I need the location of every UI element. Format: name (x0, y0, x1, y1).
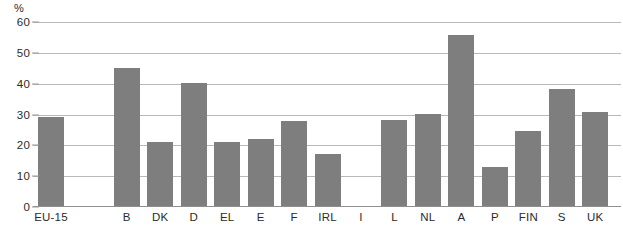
bar (181, 83, 207, 206)
y-axis-tick-mark (32, 114, 39, 115)
y-axis-tick-mark (32, 22, 39, 23)
bar-chart: % EU-15BDKDELEFIRLILNLAPFINSUK 605040302… (0, 0, 623, 235)
y-axis-tick-label: 40 (0, 78, 30, 90)
gridline (33, 53, 621, 54)
y-axis-tick-label: 20 (0, 139, 30, 151)
x-axis-tick-label: FIN (519, 211, 538, 223)
x-axis-tick-label: L (391, 211, 398, 223)
y-axis-tick-mark (32, 145, 39, 146)
bar (515, 131, 541, 206)
x-axis-tick-label: A (457, 211, 465, 223)
y-axis-unit-label: % (14, 2, 24, 14)
y-axis-tick-mark (32, 52, 39, 53)
y-axis-tick-label: 0 (0, 201, 30, 213)
bar (381, 120, 407, 206)
x-axis-tick-label: P (491, 211, 499, 223)
x-axis-tick-label: IRL (318, 211, 337, 223)
bar (38, 117, 64, 206)
x-axis-tick-label: E (257, 211, 265, 223)
x-axis-tick-label: B (123, 211, 131, 223)
bar (315, 154, 341, 206)
bar (415, 114, 441, 207)
bar (281, 121, 307, 206)
gridline (33, 22, 621, 23)
y-axis-tick-mark (32, 176, 39, 177)
x-axis: EU-15BDKDELEFIRLILNLAPFINSUK (33, 209, 621, 231)
x-axis-tick-label: EL (220, 211, 234, 223)
bar (214, 142, 240, 206)
bar (248, 139, 274, 206)
y-axis-tick-label: 60 (0, 16, 30, 28)
x-axis-tick-label: EU-15 (34, 211, 68, 223)
bar (448, 35, 474, 206)
plot-area (33, 22, 621, 207)
y-axis-tick-label: 50 (0, 47, 30, 59)
x-axis-tick-label: I (359, 211, 362, 223)
bar (549, 89, 575, 206)
x-axis-baseline (33, 206, 621, 207)
x-axis-tick-label: S (558, 211, 566, 223)
bar (114, 68, 140, 206)
bar (482, 167, 508, 206)
x-axis-tick-label: NL (420, 211, 435, 223)
x-axis-tick-label: D (189, 211, 198, 223)
x-axis-tick-label: UK (587, 211, 603, 223)
y-axis-tick-label: 30 (0, 109, 30, 121)
x-axis-tick-label: F (290, 211, 297, 223)
bar (147, 142, 173, 206)
y-axis-tick-label: 10 (0, 170, 30, 182)
x-axis-tick-label: DK (152, 211, 168, 223)
y-axis-tick-mark (32, 83, 39, 84)
y-axis-tick-mark (32, 207, 39, 208)
bar (582, 112, 608, 206)
